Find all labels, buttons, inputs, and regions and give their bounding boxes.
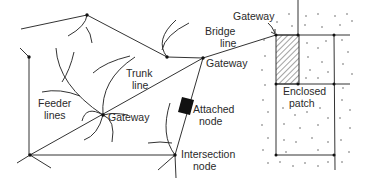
junction-branch-b (162, 23, 189, 50)
label-gateway-center: Gateway (108, 111, 150, 123)
bridge-line (203, 35, 276, 58)
label-gateway-top: Gateway (233, 10, 275, 22)
label-attached-node-1: Attached (193, 103, 235, 115)
label-trunk-line-1: Trunk (126, 67, 153, 79)
label-feeder-lines-2: lines (44, 109, 66, 121)
attached-node (178, 97, 194, 115)
node-gateway-center (101, 113, 105, 117)
label-enclosed-patch-2: patch (289, 97, 315, 109)
label-enclosed-patch-1: Enclosed (283, 85, 326, 97)
branch-top-b (86, 27, 92, 43)
label-intersection-node-2: node (193, 160, 217, 172)
grid-node-g (333, 154, 336, 157)
gateway-arrow-icon (268, 23, 275, 34)
stub-bottom-left-a (17, 155, 30, 163)
stub-intersection-b (175, 155, 176, 178)
node-bottom-left (28, 153, 31, 156)
label-intersection-node-1: Intersection (181, 148, 235, 160)
hatched-patch (276, 35, 299, 84)
feeder-branch-up (103, 57, 135, 115)
intersection-branch-a (166, 103, 175, 155)
label-bridge-line-1: Bridge (205, 25, 236, 37)
grid-node-b (333, 34, 336, 37)
feeder-branch-down-b (84, 115, 103, 140)
grid-node-e (333, 83, 336, 86)
link-junction-gateway (167, 57, 203, 58)
grid-node-a (297, 34, 300, 37)
labels: Gateway Bridge line Gateway Trunk line F… (38, 10, 326, 172)
stub-intersection-a (158, 155, 175, 170)
label-attached-node-2: node (199, 115, 223, 127)
stub-bottom-left-b (30, 155, 51, 168)
landscape-network-diagram: Gateway Bridge line Gateway Trunk line F… (0, 0, 367, 180)
intersection-branch-b (148, 142, 172, 143)
label-bridge-line-2: line (220, 37, 237, 49)
feeder-sub-a (62, 52, 74, 82)
label-gateway-right: Gateway (206, 57, 248, 69)
stub-left (20, 48, 29, 57)
node-left (27, 55, 30, 58)
node-junction (165, 55, 168, 58)
grid-node-f (275, 154, 278, 157)
label-trunk-line-2: line (132, 79, 149, 91)
node-gateway-right (201, 56, 204, 59)
link-top-left (21, 15, 87, 29)
node-intersection (173, 153, 176, 156)
node-top (85, 13, 88, 16)
grid-node-c (275, 83, 278, 86)
grid-vertical-right (334, 35, 335, 170)
feeder-sub-b (42, 91, 80, 96)
label-feeder-lines-1: Feeder (38, 97, 72, 109)
feeder-branches (42, 15, 189, 155)
junction-branch-a (162, 20, 176, 57)
link-top-junction (87, 15, 167, 57)
